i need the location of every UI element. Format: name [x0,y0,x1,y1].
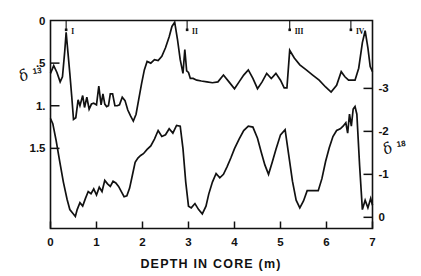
event-dot [65,29,68,32]
y-axis-right-label: δ 18 [379,138,406,158]
delta-symbol-right: δ [379,138,395,158]
x-tick-label: 4 [231,236,238,248]
delta-symbol-left: δ [15,65,31,85]
event-dot [288,29,291,32]
y-axis-left-label: δ 13 [15,65,42,85]
y-right-tick-label: -1 [379,168,390,180]
x-tick-label: 6 [323,236,329,248]
x-tick-label: 1 [93,236,100,248]
chart-svg: 01234567 0.51.1.5 -3-2-10 IIIIIIIV DEPTH… [0,0,421,276]
isotope-depth-chart: 01234567 0.51.1.5 -3-2-10 IIIIIIIV DEPTH… [0,0,421,276]
event-label: I [71,27,74,36]
x-axis-label: DEPTH IN CORE (m) [140,257,281,271]
y-right-tick-label: -2 [379,125,389,137]
x-axis-ticks: 01234567 [47,222,375,248]
x-tick-label: 2 [139,236,145,248]
plot-frame [51,21,373,229]
event-dot [186,29,189,32]
delta-superscript-left: 13 [32,66,43,76]
y-right-tick-label: 0 [379,211,385,223]
event-markers: IIIIIIIV [65,21,365,37]
x-tick-label: 0 [47,236,53,248]
event-label: II [192,27,198,36]
delta-superscript-right: 18 [396,139,407,149]
y-right-tick-label: -3 [379,82,389,94]
event-dot [350,29,353,32]
x-tick-label: 5 [277,236,284,248]
y-left-tick-label: 1.5 [30,142,47,154]
curve-delta-13 [51,22,373,121]
x-tick-label: 3 [185,236,191,248]
y-left-tick-label: 1. [36,100,46,112]
curve-delta-18 [51,106,373,216]
event-label: III [295,27,304,36]
x-tick-label: 7 [369,236,375,248]
y-left-tick-label: 0 [39,15,45,27]
